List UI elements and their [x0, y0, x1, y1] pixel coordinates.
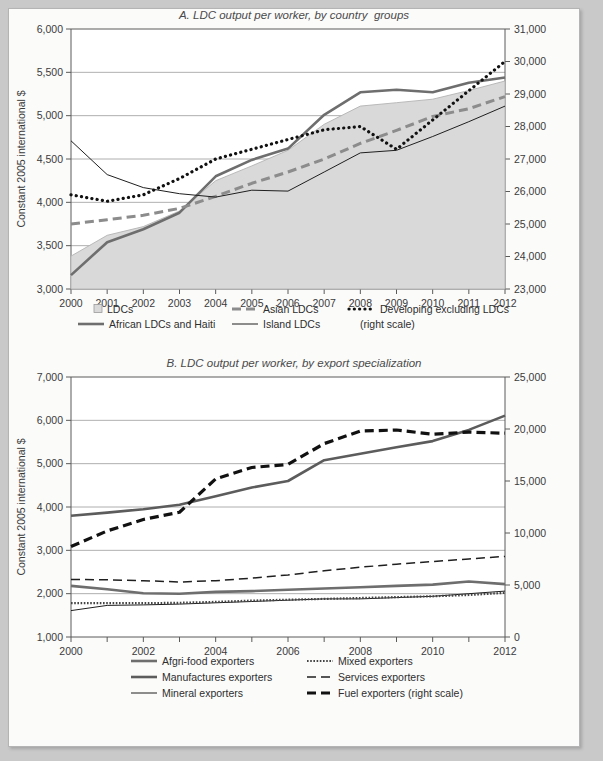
svg-text:Constant 2005 international $: Constant 2005 international $ [15, 438, 27, 575]
legend: Afgri-food exportersMixed exportersManuf… [131, 655, 463, 699]
legend-swatch-a0 [94, 305, 102, 313]
svg-text:2004: 2004 [204, 297, 228, 309]
page-root: A. LDC output per worker, by country gro… [0, 0, 603, 761]
svg-text:10,000: 10,000 [514, 527, 546, 539]
svg-text:3,000: 3,000 [37, 544, 63, 556]
svg-text:2006: 2006 [276, 645, 300, 657]
svg-text:5,000: 5,000 [37, 109, 63, 121]
svg-text:30,000: 30,000 [514, 55, 546, 67]
svg-text:25,000: 25,000 [514, 218, 546, 230]
panel-b-title: B. LDC output per worker, by export spec… [9, 357, 579, 369]
svg-text:4,500: 4,500 [37, 153, 63, 165]
svg-text:2002: 2002 [132, 297, 156, 309]
panel-a-title: A. LDC output per worker, by country gro… [9, 9, 579, 21]
svg-text:29,000: 29,000 [514, 88, 546, 100]
svg-text:6,000: 6,000 [37, 23, 63, 35]
svg-text:5,000: 5,000 [514, 579, 540, 591]
svg-text:26,000: 26,000 [514, 185, 546, 197]
legend-label-b2: Manufactures exporters [162, 671, 272, 683]
panel-a: A. LDC output per worker, by country gro… [9, 9, 579, 351]
svg-text:27,000: 27,000 [514, 153, 546, 165]
svg-text:4,000: 4,000 [37, 501, 63, 513]
panel-a-chart: 3,0003,5004,0004,5005,0005,5006,00023,00… [9, 21, 577, 351]
legend-label-a2: Asian LDCs [263, 303, 318, 315]
legend-label-b5: Fuel exporters (right scale) [338, 687, 463, 699]
svg-text:2000: 2000 [59, 645, 83, 657]
svg-text:2012: 2012 [493, 645, 517, 657]
svg-text:28,000: 28,000 [514, 120, 546, 132]
svg-text:23,000: 23,000 [514, 283, 546, 295]
panel-b-chart: 1,0002,0003,0004,0005,0006,0007,00005,00… [9, 369, 577, 699]
svg-text:25,000: 25,000 [514, 371, 546, 383]
svg-text:0: 0 [514, 631, 520, 643]
svg-text:2,000: 2,000 [37, 587, 63, 599]
legend-label-b0: Afgri-food exporters [162, 655, 254, 667]
legend-label-b1: Mixed exporters [338, 655, 413, 667]
svg-text:4,000: 4,000 [37, 196, 63, 208]
svg-text:1,000: 1,000 [37, 631, 63, 643]
svg-text:2008: 2008 [349, 297, 373, 309]
svg-text:2003: 2003 [168, 297, 192, 309]
legend-label-b3: Services exporters [338, 671, 425, 683]
svg-text:3,000: 3,000 [37, 283, 63, 295]
svg-text:15,000: 15,000 [514, 475, 546, 487]
svg-text:2005: 2005 [240, 297, 264, 309]
svg-text:7,000: 7,000 [37, 371, 63, 383]
panel-b: B. LDC output per worker, by export spec… [9, 357, 579, 699]
svg-text:2000: 2000 [59, 297, 83, 309]
scanned-page-sheet: A. LDC output per worker, by country gro… [8, 8, 580, 747]
legend-label-a0: LDCs [107, 303, 133, 315]
legend-label-a1: African LDCs and Haiti [109, 318, 215, 330]
svg-text:5,000: 5,000 [37, 457, 63, 469]
legend-label-a5: (right scale) [360, 318, 415, 330]
svg-text:2010: 2010 [421, 645, 445, 657]
legend-label-a4: Developing excluding LDCs [380, 303, 509, 315]
svg-text:20,000: 20,000 [514, 423, 546, 435]
legend-label-b4: Mineral exporters [162, 687, 243, 699]
legend-label-a3: Island LDCs [263, 318, 320, 330]
svg-text:3,500: 3,500 [37, 239, 63, 251]
svg-text:6,000: 6,000 [37, 414, 63, 426]
svg-text:2002: 2002 [132, 645, 156, 657]
svg-text:5,500: 5,500 [37, 66, 63, 78]
svg-text:31,000: 31,000 [514, 23, 546, 35]
svg-text:24,000: 24,000 [514, 250, 546, 262]
svg-text:Constant 2005 international $: Constant 2005 international $ [15, 90, 27, 227]
